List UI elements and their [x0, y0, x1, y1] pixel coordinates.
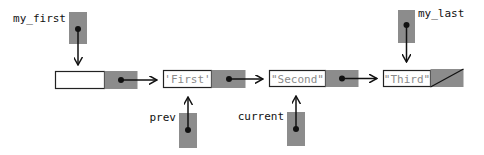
pointer-my-first: my_first — [13, 12, 87, 65]
node-value-third: "Third" — [384, 73, 430, 86]
node-second: "Second" — [270, 70, 378, 87]
node-value-cell — [56, 72, 105, 89]
node-first: 'First' — [164, 70, 264, 88]
node-header — [56, 71, 158, 89]
node-third: "Third" — [384, 69, 464, 87]
linked-list-diagram: my_first 'First' "Second" "Third" — [0, 0, 484, 155]
pointer-prev: prev — [150, 97, 198, 148]
pointer-current: current — [238, 96, 305, 146]
node-value-first: 'First' — [164, 73, 210, 86]
node-value-second: "Second" — [271, 73, 324, 86]
pointer-label-my-last: my_last — [418, 7, 464, 20]
pointer-label-my-first: my_first — [13, 12, 66, 25]
pointer-my-last: my_last — [398, 7, 464, 62]
pointer-label-current: current — [238, 110, 284, 123]
pointer-label-prev: prev — [150, 111, 177, 124]
